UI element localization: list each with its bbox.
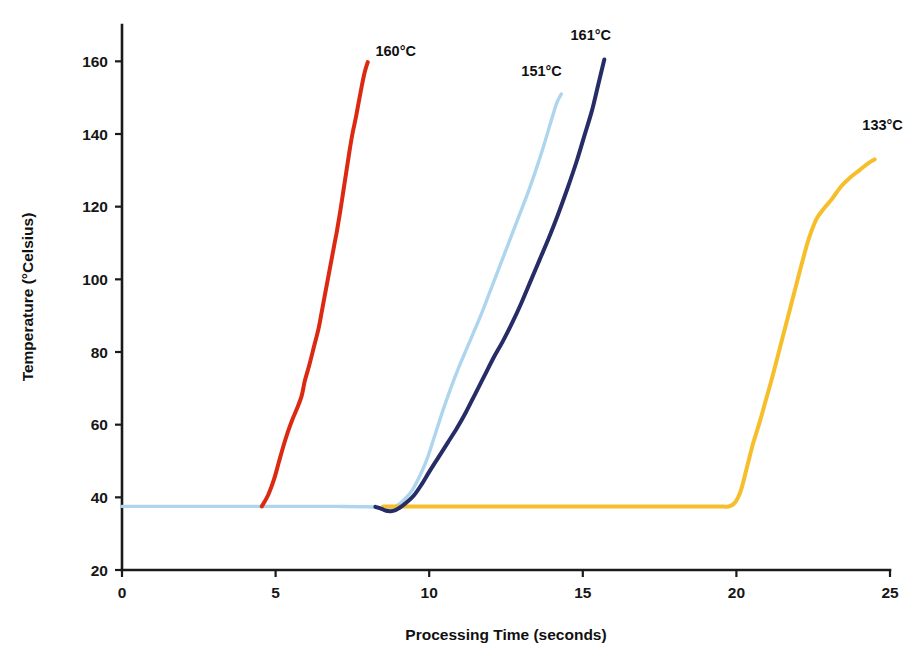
x-tick-label: 25 bbox=[881, 584, 899, 601]
series-label-151c: 151°C bbox=[521, 63, 562, 79]
series-line-151c bbox=[122, 94, 561, 508]
y-tick-label: 20 bbox=[91, 562, 108, 579]
y-tick-label: 60 bbox=[91, 416, 108, 433]
x-tick-label: 20 bbox=[728, 584, 745, 601]
x-axis-title: Processing Time (seconds) bbox=[405, 626, 606, 643]
y-tick-label: 100 bbox=[82, 271, 108, 288]
series-line-160c bbox=[262, 62, 368, 506]
x-tick-label: 0 bbox=[118, 584, 127, 601]
temperature-vs-processing-time-chart: 20406080100120140160 0510152025 160°C151… bbox=[0, 0, 914, 665]
y-tick-label: 140 bbox=[82, 126, 108, 143]
series-label-160c: 160°C bbox=[375, 43, 416, 59]
y-tick-label: 120 bbox=[82, 198, 108, 215]
series-label-161c: 161°C bbox=[571, 27, 612, 43]
y-tick-label: 160 bbox=[82, 53, 108, 70]
x-axis-group: 0510152025 bbox=[118, 570, 899, 601]
y-tick-label: 40 bbox=[91, 489, 108, 506]
y-tick-label: 80 bbox=[91, 344, 108, 361]
series-line-161c bbox=[375, 60, 604, 512]
series-lines-group bbox=[122, 60, 875, 512]
series-line-133c bbox=[383, 159, 875, 506]
x-tick-label: 5 bbox=[271, 584, 280, 601]
y-axis-title: Temperature (°Celsius) bbox=[19, 213, 36, 382]
x-tick-label: 15 bbox=[574, 584, 592, 601]
x-axis-ticks: 0510152025 bbox=[118, 570, 899, 601]
y-axis-ticks: 20406080100120140160 bbox=[82, 53, 122, 579]
series-label-133c: 133°C bbox=[862, 117, 903, 133]
chart-canvas: 20406080100120140160 0510152025 160°C151… bbox=[0, 0, 914, 665]
x-tick-label: 10 bbox=[421, 584, 438, 601]
series-labels-group: 160°C151°C161°C133°C bbox=[375, 27, 903, 134]
y-axis-group: 20406080100120140160 bbox=[82, 25, 122, 579]
